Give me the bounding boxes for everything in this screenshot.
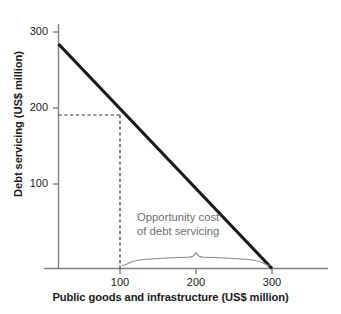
opportunity-cost-annotation: Opportunity cost of debt servicing	[137, 211, 252, 238]
x-tick-label-200: 200	[176, 276, 216, 288]
opportunity-cost-brace	[122, 253, 270, 266]
chart-plot-area	[0, 0, 341, 314]
annotation-line-1: Opportunity cost	[137, 211, 252, 225]
y-axis-title: Debt servicing (US$ million)	[12, 24, 24, 224]
x-tick-label-300: 300	[252, 276, 292, 288]
chart-container: 300 200 100 100 200 300 Debt servicing (…	[0, 0, 341, 314]
x-axis-title: Public goods and infrastructure (US$ mil…	[0, 291, 341, 303]
x-tick-label-100: 100	[100, 276, 140, 288]
annotation-line-2: of debt servicing	[137, 225, 252, 239]
